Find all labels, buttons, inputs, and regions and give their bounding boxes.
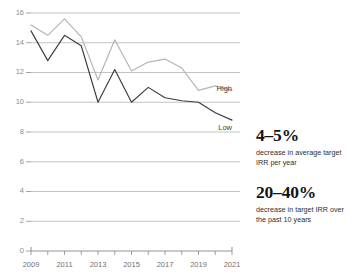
xtick-label: 2009	[23, 260, 40, 269]
ytick-label: 6	[20, 157, 24, 166]
chart-figure: 0246810121416 20092011201320152017201920…	[0, 0, 355, 280]
stats-panel: 4–5% decrease in average target IRR per …	[256, 126, 352, 225]
xtick-label: 2021	[224, 260, 241, 269]
stat-value: 4–5%	[256, 126, 352, 145]
xaxis-group	[31, 247, 232, 255]
xtick-label: 2017	[157, 260, 174, 269]
ytick-label: 0	[20, 246, 24, 255]
gridlines-group	[26, 13, 240, 251]
ytick-label: 14	[16, 38, 24, 47]
ytick-label: 2	[20, 216, 24, 225]
stat-description: decrease in target IRR over the past 10 …	[256, 205, 352, 225]
series-label-high: High	[217, 84, 232, 93]
xtick-label: 2019	[190, 260, 207, 269]
ytick-label: 8	[20, 127, 24, 136]
stat-description: decrease in average target IRR per year	[256, 148, 352, 168]
ytick-label: 4	[20, 186, 24, 195]
xtick-labels-group: 2009201120132015201720192021	[23, 260, 241, 269]
series-label-low: Low	[218, 123, 232, 132]
xtick-label: 2013	[90, 260, 107, 269]
series-line-low	[31, 31, 232, 120]
line-chart-panel: 0246810121416 20092011201320152017201920…	[0, 0, 248, 280]
stat-value: 20–40%	[256, 183, 352, 202]
xtick-label: 2011	[56, 260, 72, 269]
ytick-label: 12	[16, 67, 24, 76]
ytick-label: 16	[16, 8, 24, 17]
ytick-labels-group: 0246810121416	[16, 8, 24, 255]
xtick-label: 2015	[123, 260, 140, 269]
stat-block: 20–40% decrease in target IRR over the p…	[256, 183, 352, 226]
stat-block: 4–5% decrease in average target IRR per …	[256, 126, 352, 169]
ytick-label: 10	[16, 97, 24, 106]
series-line-high	[31, 19, 232, 90]
chart-plot-svg: 0246810121416 20092011201320152017201920…	[0, 0, 248, 280]
